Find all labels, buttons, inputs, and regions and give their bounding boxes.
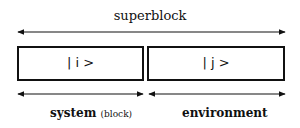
environment-state-label: | j > xyxy=(148,55,284,70)
system-label: system (block) xyxy=(50,106,132,120)
block-note: (block) xyxy=(101,109,133,119)
system-state-label: | i > xyxy=(18,55,143,70)
superblock-label: superblock xyxy=(0,8,300,23)
environment-label: environment xyxy=(182,106,268,120)
system-text: system xyxy=(50,106,96,120)
